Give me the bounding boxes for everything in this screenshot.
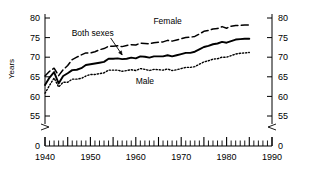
annotation-arrow-head-both-sexes	[119, 51, 123, 55]
y-axis-label-left-80: 80	[30, 13, 40, 23]
x-axis-label-1960: 1960	[126, 152, 146, 162]
x-axis-label-1950: 1950	[80, 152, 100, 162]
y-axis-label-right-60: 60	[278, 92, 288, 102]
y-axis-label-left-70: 70	[30, 52, 40, 62]
y-axis-label-left-75: 75	[30, 33, 40, 43]
x-axis-label-1980: 1980	[217, 152, 237, 162]
y-axis-label-left-60: 60	[30, 92, 40, 102]
annotation-female: Female	[153, 16, 182, 26]
y-axis-label-right-65: 65	[278, 72, 288, 82]
life-expectancy-line-chart: 55556060656570707575808000Years194019501…	[0, 0, 315, 171]
annotation-both-sexes: Both sexes	[72, 28, 114, 38]
y-axis-label-left-zero: 0	[35, 141, 40, 151]
y-axis-label-right-80: 80	[278, 13, 288, 23]
left-axis-break-icon	[41, 124, 49, 130]
y-axis-label-left-65: 65	[30, 72, 40, 82]
chart-figure: 55556060656570707575808000Years194019501…	[0, 0, 315, 171]
y-axis-title: Years	[7, 59, 16, 79]
right-axis-break-icon	[268, 124, 276, 130]
x-axis-label-1940: 1940	[35, 152, 55, 162]
y-axis-label-left-55: 55	[30, 111, 40, 121]
y-axis-label-right-zero: 0	[278, 141, 283, 151]
x-axis-label-1970: 1970	[171, 152, 191, 162]
x-axis-label-1990: 1990	[262, 152, 282, 162]
y-axis-label-right-55: 55	[278, 111, 288, 121]
y-axis-label-right-70: 70	[278, 52, 288, 62]
y-axis-label-right-75: 75	[278, 33, 288, 43]
annotation-male: Male	[136, 76, 155, 86]
